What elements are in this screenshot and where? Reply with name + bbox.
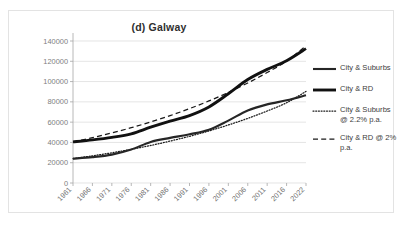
x-axis-label: 1996: [191, 185, 209, 203]
x-axis-label: 1966: [75, 185, 93, 203]
x-axis-label: 1971: [94, 185, 112, 203]
x-axis-label: 1986: [152, 185, 170, 203]
x-axis-label: 2006: [230, 185, 248, 203]
legend-label: City & RD @ 2% p.a.: [340, 133, 398, 152]
legend-item[interactable]: City & RD @ 2% p.a.: [312, 133, 398, 152]
legend-item[interactable]: City & Suburbs: [312, 63, 398, 75]
y-axis-label: 80000: [47, 97, 68, 106]
y-axis-label: 100000: [43, 77, 68, 86]
legend-swatch-icon: [312, 63, 337, 75]
series-line-city-rd: [73, 49, 306, 142]
y-axis-label: 20000: [47, 158, 68, 167]
legend-swatch-icon: [312, 84, 337, 96]
legend-label: City & Suburbs: [340, 63, 391, 73]
x-axis-label: 2001: [211, 185, 229, 203]
series-line-city-rd-2-p-a: [73, 46, 306, 142]
x-axis-label: 1991: [172, 185, 190, 203]
x-axis-label: 1976: [114, 185, 132, 203]
legend-item[interactable]: City & RD: [312, 84, 398, 96]
x-axis-label: 1961: [55, 185, 73, 203]
y-axis-label: 40000: [47, 138, 68, 147]
legend-label: City & Suburbs @ 2.2% p.a.: [340, 105, 398, 124]
legend-item[interactable]: City & Suburbs @ 2.2% p.a.: [312, 105, 398, 124]
chart-legend: City & SuburbsCity & RDCity & Suburbs @ …: [312, 63, 398, 161]
y-axis-label: 120000: [43, 57, 68, 66]
x-axis-label: 2016: [269, 185, 287, 203]
series-line-city-suburbs: [73, 95, 306, 158]
y-axis-label: 60000: [47, 118, 68, 127]
chart-card: (d) Galway 14000012000010000080000600004…: [8, 10, 394, 213]
series-line-city-suburbs-2-2-p-a: [73, 91, 306, 158]
legend-swatch-icon: [312, 105, 337, 117]
x-axis-label: 2022: [288, 185, 306, 203]
legend-label: City & RD: [340, 84, 373, 94]
x-axis-label: 1981: [133, 185, 151, 203]
y-axis-label: 140000: [43, 37, 68, 46]
x-axis-label: 2011: [250, 185, 268, 203]
legend-swatch-icon: [312, 133, 337, 145]
